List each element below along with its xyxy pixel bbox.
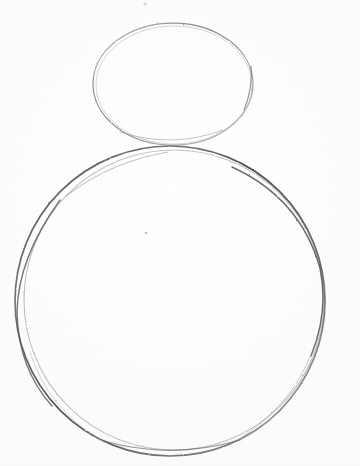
- body-right-dark-stroke: [232, 167, 323, 356]
- body-lower-left-double-stroke: [30, 352, 104, 442]
- head-shape-group: [93, 23, 253, 145]
- body-circle-overdraw: [24, 150, 324, 450]
- body-lower-right-halo-stroke: [248, 336, 320, 437]
- body-shape-group: [15, 146, 325, 456]
- stray-mark-center-icon: [145, 232, 148, 235]
- body-lower-right-double-stroke: [236, 352, 312, 441]
- stray-mark-top-icon: [143, 2, 146, 5]
- head-ellipse-overdraw: [96, 26, 252, 144]
- sketch-canvas: A light pencil sketch of a small ellipse…: [0, 0, 360, 466]
- pencil-sketch-drawing: [0, 0, 360, 466]
- stray-marks-group: [143, 2, 147, 234]
- body-left-dark-stroke: [17, 200, 60, 406]
